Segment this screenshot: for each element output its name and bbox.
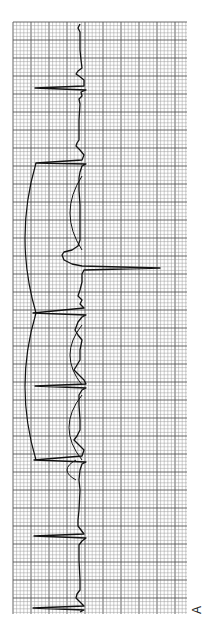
panel-label: A	[190, 603, 204, 617]
ecg-strip-figure	[0, 0, 205, 632]
